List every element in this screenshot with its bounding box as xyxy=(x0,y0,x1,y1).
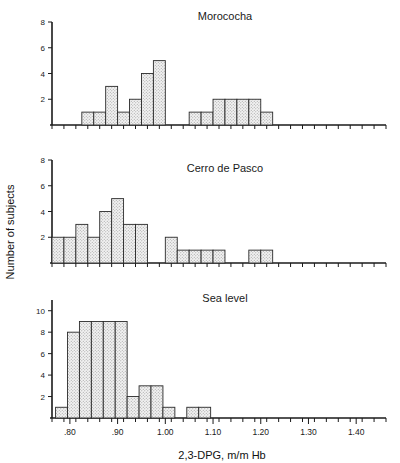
histogram-bar xyxy=(201,112,213,125)
histogram-bar xyxy=(261,250,273,263)
histogram-bar xyxy=(163,407,175,418)
y-tick-label: 8 xyxy=(41,328,46,337)
histogram-bar xyxy=(79,321,91,418)
histogram-bar xyxy=(225,99,237,125)
histogram-bar xyxy=(115,321,127,418)
panel-title: Morococha xyxy=(198,10,253,22)
x-tick-label: 1.40 xyxy=(348,427,365,437)
y-tick-label: 6 xyxy=(41,44,46,53)
histogram-bar xyxy=(94,112,106,125)
histogram-bar xyxy=(100,212,112,264)
x-tick-label: .90 xyxy=(112,427,124,437)
histogram-bar xyxy=(76,224,88,263)
y-tick-label: 4 xyxy=(41,208,46,217)
histogram-bar xyxy=(237,99,249,125)
panel-sea-level: 246810Sea level.80.901.001.101.201.301.4… xyxy=(36,292,386,437)
panel-title: Cerro de Pasco xyxy=(187,162,263,174)
figure-canvas: Number of subjects 2468Morococha 2468Cer… xyxy=(0,0,400,463)
histogram-bar xyxy=(249,99,261,125)
y-axis-label: Number of subjects xyxy=(4,184,16,279)
y-tick-label: 10 xyxy=(36,307,45,316)
x-tick-label: .80 xyxy=(64,427,76,437)
histogram-bar xyxy=(127,397,139,418)
y-tick-label: 4 xyxy=(41,70,46,79)
histogram-bar xyxy=(103,321,115,418)
y-tick-label: 8 xyxy=(41,18,46,27)
histogram-bar xyxy=(151,386,163,418)
histogram-bar xyxy=(88,237,100,263)
histogram-bar xyxy=(68,332,80,418)
y-tick-label: 4 xyxy=(41,371,46,380)
y-tick-label: 6 xyxy=(41,350,46,359)
histogram-bar xyxy=(118,112,130,125)
histogram-bar xyxy=(112,199,124,263)
histogram-bar xyxy=(187,407,199,418)
x-tick-label: 1.00 xyxy=(157,427,174,437)
histogram-bar xyxy=(201,250,213,263)
histogram-bar xyxy=(261,112,273,125)
histogram-bar xyxy=(82,112,94,125)
histogram-bar xyxy=(177,250,189,263)
panel-cerro-de-pasco: 2468Cerro de Pasco xyxy=(41,156,386,267)
x-tick-label: 1.30 xyxy=(300,427,317,437)
histogram-bar xyxy=(189,112,201,125)
histogram-bar xyxy=(124,224,136,263)
x-tick-label: 1.20 xyxy=(252,427,269,437)
panel-title: Sea level xyxy=(202,292,247,304)
histogram-bar xyxy=(249,250,261,263)
histogram-bar xyxy=(136,224,148,263)
histogram-bar xyxy=(141,74,153,126)
histogram-bar xyxy=(64,237,76,263)
histogram-bar xyxy=(199,407,211,418)
y-tick-label: 8 xyxy=(41,156,46,165)
histogram-bar xyxy=(106,86,118,125)
histogram-bar xyxy=(165,237,177,263)
y-tick-label: 6 xyxy=(41,182,46,191)
y-tick-label: 2 xyxy=(41,95,46,104)
histogram-figure: Number of subjects 2468Morococha 2468Cer… xyxy=(0,0,400,463)
panel-morococha: 2468Morococha xyxy=(41,10,386,129)
histogram-bar xyxy=(52,237,64,263)
y-tick-label: 2 xyxy=(41,233,46,242)
y-tick-label: 2 xyxy=(41,393,46,402)
x-axis-label: 2,3-DPG, m/m Hb xyxy=(178,449,265,461)
histogram-bar xyxy=(189,250,201,263)
histogram-bar xyxy=(56,407,68,418)
histogram-bar xyxy=(139,386,151,418)
histogram-bar xyxy=(213,99,225,125)
histogram-bar xyxy=(130,99,142,125)
histogram-bar xyxy=(213,250,225,263)
histogram-bar xyxy=(153,61,165,125)
histogram-bar xyxy=(91,321,103,418)
x-tick-label: 1.10 xyxy=(205,427,222,437)
